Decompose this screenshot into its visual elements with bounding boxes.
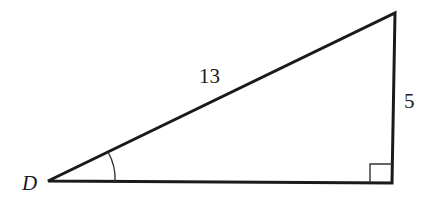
triangle — [48, 13, 395, 183]
vertex-label-D: D — [21, 171, 37, 195]
triangle-diagram: D 13 5 — [0, 0, 434, 203]
angle-arc-at-D — [108, 152, 115, 182]
right-angle-marker — [370, 164, 392, 183]
hypotenuse-label: 13 — [199, 64, 220, 88]
side-label: 5 — [404, 89, 415, 113]
